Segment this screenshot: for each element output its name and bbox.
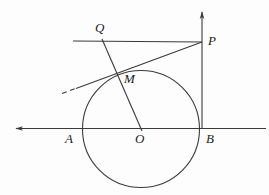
tangent-dashed-extension: [62, 88, 77, 94]
point-label-p: P: [208, 34, 216, 47]
point-label-a: A: [65, 132, 73, 145]
geometry-canvas: [0, 0, 269, 195]
segment-q-to-o: [102, 39, 142, 131]
point-label-m: M: [124, 72, 135, 85]
tangent-line-mp: [76, 42, 202, 89]
segment-qp: [73, 41, 202, 42]
point-label-q: Q: [95, 21, 104, 34]
point-label-o: O: [135, 132, 144, 145]
point-label-b: B: [206, 132, 214, 145]
geometry-diagram: Q P M A O B: [0, 0, 269, 195]
